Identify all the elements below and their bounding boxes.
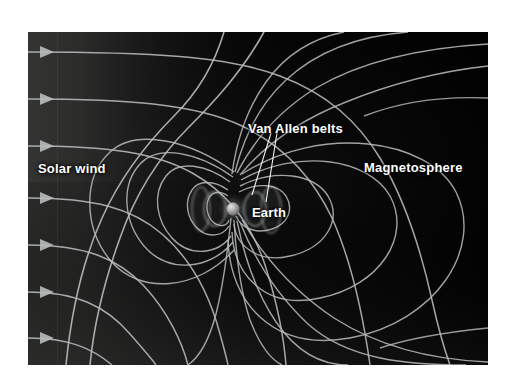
label-magnetosphere: Magnetosphere [364, 161, 463, 174]
magnetosphere-svg [28, 32, 488, 365]
earth-sphere [227, 203, 240, 216]
label-solar-wind: Solar wind [38, 162, 106, 175]
label-van-allen-belts: Van Allen belts [248, 122, 343, 135]
label-earth: Earth [252, 206, 286, 219]
magnetosphere-diagram: Solar wind Van Allen belts Earth Magneto… [28, 32, 488, 365]
earth-body [216, 192, 250, 226]
